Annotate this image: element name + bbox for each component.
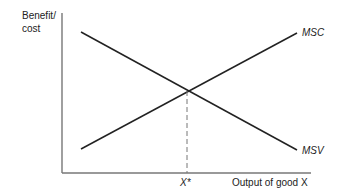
y-axis-label-line1: Benefit/ — [22, 10, 56, 21]
msv-label: MSV — [302, 145, 325, 156]
welfare-diagram: Benefit/ cost MSC MSV X* Output of good … — [0, 0, 339, 194]
x-star-label: X* — [179, 177, 192, 188]
msc-label: MSC — [302, 27, 325, 38]
x-axis-label: Output of good X — [232, 177, 308, 188]
y-axis-label-line2: cost — [22, 23, 41, 34]
